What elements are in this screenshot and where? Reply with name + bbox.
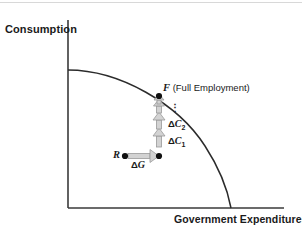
delta-c2-label: ΔC2: [168, 119, 185, 131]
delta-c2-symbol: C: [175, 118, 182, 129]
delta-c2-subscript: 2: [182, 124, 186, 131]
point-r-label: R: [113, 150, 120, 161]
delta-g-delta: Δ: [131, 159, 138, 170]
delta-g-endpoint-marker: [156, 153, 162, 159]
vertical-ellipsis-icon: ⋮: [170, 103, 180, 113]
delta-c2-arrow: [153, 112, 165, 129]
delta-c1-subscript: 1: [182, 141, 186, 148]
delta-g-symbol: G: [138, 159, 145, 170]
delta-c1-symbol: C: [175, 135, 182, 146]
point-f-marker: [156, 93, 162, 99]
delta-c1-label: ΔC1: [168, 136, 185, 148]
y-axis-label: Consumption: [5, 24, 77, 35]
x-axis-label: Government Expenditures: [174, 214, 302, 225]
point-f-label: F (Full Employment): [163, 83, 250, 94]
point-f-symbol: F: [163, 82, 170, 93]
point-r-marker: [122, 153, 128, 159]
point-f-annotation: (Full Employment): [173, 82, 250, 93]
ppf-diagram: Consumption Government Expenditures F (F…: [0, 0, 302, 228]
delta-c1-arrow: [153, 128, 165, 147]
delta-g-label: ΔG: [131, 160, 145, 170]
delta-c2-delta: Δ: [168, 118, 175, 129]
delta-c1-delta: Δ: [168, 135, 175, 146]
